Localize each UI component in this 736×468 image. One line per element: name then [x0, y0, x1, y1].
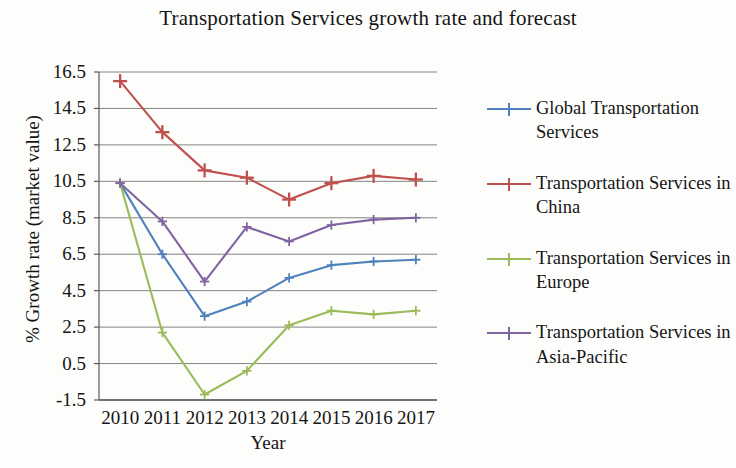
legend-swatch-icon: [487, 99, 531, 119]
legend-item[interactable]: Transportation Services in Asia-Pacific: [487, 320, 736, 369]
gridlines: [99, 72, 437, 400]
series-4: [116, 179, 421, 287]
series-line: [120, 183, 416, 316]
legend-label: Transportation Services in Europe: [536, 246, 736, 295]
data-point-marker: [369, 215, 378, 224]
legend-label: Transportation Services in Asia-Pacific: [536, 320, 736, 369]
legend-marker-v: [508, 253, 510, 266]
data-point-marker: [369, 310, 378, 319]
legend-marker-v: [508, 178, 510, 191]
data-point-marker: [369, 257, 378, 266]
data-point-marker: [327, 220, 336, 229]
data-point-marker: [411, 213, 420, 222]
chart-legend: Global Transportation ServicesTransporta…: [487, 96, 736, 395]
data-point-marker: [324, 176, 338, 190]
chart-container: Transportation Services growth rate and …: [0, 0, 736, 468]
legend-label: Global Transportation Services: [536, 96, 736, 145]
series-1: [116, 179, 421, 321]
series-2: [113, 74, 423, 206]
data-point-marker: [367, 169, 381, 183]
legend-swatch-icon: [487, 249, 531, 269]
legend-swatch-icon: [487, 323, 531, 343]
data-point-marker: [327, 306, 336, 315]
data-point-marker: [411, 306, 420, 315]
data-point-marker: [285, 237, 294, 246]
data-point-marker: [409, 173, 423, 187]
data-point-marker: [240, 171, 254, 185]
legend-item[interactable]: Global Transportation Services: [487, 96, 736, 145]
legend-item[interactable]: Transportation Services in Europe: [487, 246, 736, 295]
data-point-marker: [411, 255, 420, 264]
legend-item[interactable]: Transportation Services in China: [487, 171, 736, 220]
legend-marker-v: [508, 103, 510, 116]
data-point-marker: [285, 273, 294, 282]
data-point-marker: [327, 261, 336, 270]
legend-swatch-icon: [487, 174, 531, 194]
data-point-marker: [282, 193, 296, 207]
series-line: [120, 183, 416, 281]
data-point-marker: [242, 297, 251, 306]
legend-label: Transportation Services in China: [536, 171, 736, 220]
legend-marker-v: [508, 327, 510, 340]
